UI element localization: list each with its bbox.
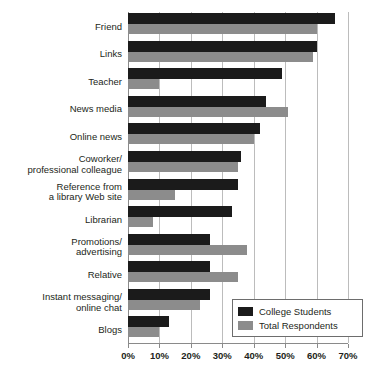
y-axis-label: News media — [0, 104, 122, 115]
plot-area — [128, 12, 348, 343]
bar-college-students — [128, 316, 169, 327]
bar-total-respondents — [128, 24, 317, 34]
bar-row — [128, 95, 348, 123]
y-axis-label: Online news — [0, 132, 122, 143]
bar-college-students — [128, 123, 260, 134]
bar-total-respondents — [128, 79, 159, 89]
y-axis-category-labels: FriendLinksTeacherNews mediaOnline newsC… — [0, 12, 122, 343]
bar-row — [128, 205, 348, 233]
bar-row — [128, 67, 348, 95]
bar-total-respondents — [128, 190, 175, 200]
bar-college-students — [128, 68, 282, 79]
y-axis-label: Librarian — [0, 215, 122, 226]
legend-label-college-students: College Students — [259, 306, 331, 317]
y-axis-label: Instant messaging/ online chat — [0, 292, 122, 313]
x-tick-label: 0% — [121, 350, 135, 361]
x-tick-label: 10% — [150, 350, 169, 361]
y-axis-label: Promotions/ advertising — [0, 237, 122, 258]
bar-total-respondents — [128, 300, 200, 310]
y-axis-label: Links — [0, 49, 122, 60]
bar-row — [128, 233, 348, 261]
bar-rows — [128, 12, 348, 343]
x-tick-mark — [222, 344, 223, 348]
bar-row — [128, 122, 348, 150]
bar-chart: FriendLinksTeacherNews mediaOnline newsC… — [0, 0, 373, 367]
bar-row — [128, 12, 348, 40]
gridline-70pct — [348, 12, 349, 343]
x-tick-label: 20% — [181, 350, 200, 361]
legend-item-college-students: College Students — [238, 304, 357, 318]
y-axis-label: Reference from a library Web site — [0, 182, 122, 203]
bar-row — [128, 178, 348, 206]
bar-total-respondents — [128, 52, 313, 62]
chart-legend: College Students Total Respondents — [232, 299, 363, 337]
x-tick-label: 30% — [213, 350, 232, 361]
y-axis-label: Blogs — [0, 325, 122, 336]
bar-total-respondents — [128, 245, 247, 255]
bar-total-respondents — [128, 327, 159, 337]
x-tick-mark — [317, 344, 318, 348]
legend-swatch-total-respondents — [238, 321, 253, 330]
bar-college-students — [128, 206, 232, 217]
bar-row — [128, 150, 348, 178]
y-axis-label: Coworker/ professional colleague — [0, 154, 122, 175]
bar-college-students — [128, 289, 210, 300]
x-tick-mark — [254, 344, 255, 348]
bar-row — [128, 260, 348, 288]
bar-total-respondents — [128, 134, 254, 144]
bar-total-respondents — [128, 272, 238, 282]
bar-college-students — [128, 13, 335, 24]
x-tick-mark — [191, 344, 192, 348]
bar-college-students — [128, 41, 317, 52]
x-tick-label: 70% — [338, 350, 357, 361]
y-axis-label: Teacher — [0, 77, 122, 88]
x-tick-mark — [285, 344, 286, 348]
x-tick-mark — [128, 344, 129, 348]
bar-row — [128, 40, 348, 68]
x-tick-label: 40% — [244, 350, 263, 361]
bar-total-respondents — [128, 162, 238, 172]
x-axis-ticks: 0%10%20%30%40%50%60%70% — [128, 344, 348, 364]
legend-label-total-respondents: Total Respondents — [259, 320, 338, 331]
bar-college-students — [128, 179, 238, 190]
bar-college-students — [128, 261, 210, 272]
bar-college-students — [128, 151, 241, 162]
bar-total-respondents — [128, 107, 288, 117]
x-tick-mark — [348, 344, 349, 348]
y-axis-label: Friend — [0, 22, 122, 33]
x-tick-label: 50% — [276, 350, 295, 361]
bar-total-respondents — [128, 217, 153, 227]
bar-college-students — [128, 96, 266, 107]
x-tick-mark — [159, 344, 160, 348]
bar-college-students — [128, 234, 210, 245]
y-axis-label: Relative — [0, 270, 122, 281]
legend-item-total-respondents: Total Respondents — [238, 318, 357, 332]
x-tick-label: 60% — [307, 350, 326, 361]
legend-swatch-college-students — [238, 307, 253, 316]
